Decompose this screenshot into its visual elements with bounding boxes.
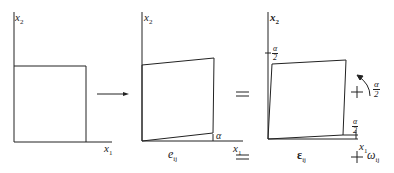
arrow-icon	[97, 92, 129, 96]
caption-e-ij: eij	[168, 148, 177, 163]
strained-square	[268, 60, 346, 139]
axis-label-x2: x2	[15, 12, 23, 26]
diagram-canvas	[0, 0, 394, 173]
axis-label-x1: x1	[104, 143, 112, 157]
axis-label-x1: x1	[233, 143, 241, 157]
angle-label-alpha-half-bottom: α2	[352, 118, 358, 135]
caption-omega-ij: ωij	[367, 149, 379, 164]
square	[14, 66, 86, 142]
caption-epsilon-ij: εij	[297, 149, 306, 164]
rotation-label-alpha-half: α2	[373, 80, 380, 99]
angle-label-alpha-half-top: α2	[272, 45, 278, 62]
axis-label-x2: x2	[144, 12, 152, 26]
sheared-quad	[142, 58, 214, 141]
panel-deformed	[142, 12, 243, 141]
panel-original	[14, 12, 112, 142]
axis-label-x2: x2	[270, 12, 279, 26]
angle-label-alpha: α	[216, 131, 221, 141]
